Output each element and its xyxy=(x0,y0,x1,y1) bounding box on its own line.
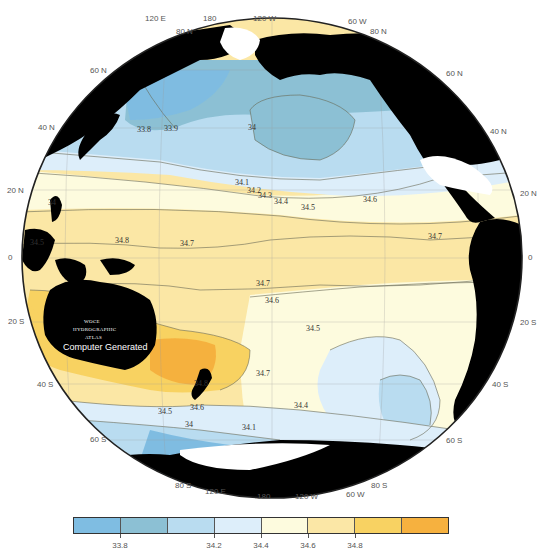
contour-label: 33.9 xyxy=(164,124,178,133)
contour-label: 34 xyxy=(248,123,256,132)
contour-label: 34.6 xyxy=(265,296,279,305)
lon-label-bottom-60w: 60 W xyxy=(346,490,365,499)
colorbar-tick xyxy=(214,534,215,538)
lon-label-bottom-180: 180 xyxy=(257,492,270,501)
atlas-mark-line2: HYDROGRAPHIC xyxy=(73,327,116,332)
colorbar-tick-label: 33.8 xyxy=(112,541,128,550)
lat-label-left-80s: 80 S xyxy=(175,481,191,490)
colorbar-tick-label: 34.6 xyxy=(300,541,316,550)
lat-label-right-0: 0 xyxy=(528,253,532,262)
lat-label-right-60n: 60 N xyxy=(446,69,463,78)
lat-label-right-40s: 40 S xyxy=(492,380,508,389)
lat-label-right-20n: 20 N xyxy=(520,189,537,198)
colorbar-segment xyxy=(121,518,168,533)
atlas-mark-line1: WOCE xyxy=(84,319,100,324)
contour-label: 34.4 xyxy=(294,401,308,410)
contour-label: 34.5 xyxy=(158,407,172,416)
colorbar-tick xyxy=(261,534,262,538)
lon-label-top-120e: 120 E xyxy=(145,14,166,23)
lat-label-right-80n: 80 N xyxy=(370,27,387,36)
lat-label-left-0: 0 xyxy=(8,253,12,262)
contour-label: 34 xyxy=(185,420,193,429)
contour-label: 34.8 xyxy=(194,379,208,388)
lat-label-right-80s: 80 S xyxy=(371,481,387,490)
contour-label: 34 xyxy=(48,198,56,207)
lat-label-left-60s: 60 S xyxy=(90,435,106,444)
contour-label: 34.7 xyxy=(428,232,442,241)
contour-label: 34.1 xyxy=(242,423,256,432)
lat-label-left-60n: 60 N xyxy=(90,66,107,75)
colorbar-tick xyxy=(308,534,309,538)
lat-label-left-20n: 20 N xyxy=(7,186,24,195)
contour-label: 34.7 xyxy=(256,279,270,288)
lat-label-left-20s: 20 S xyxy=(8,317,24,326)
colorbar-segment xyxy=(215,518,262,533)
contour-label: 34.8 xyxy=(115,236,129,245)
contour-label: 34.7 xyxy=(180,239,194,248)
atlas-mark-computer-generated: Computer Generated xyxy=(63,342,148,352)
lon-label-top-180: 180 xyxy=(203,14,216,23)
contour-label: 34.4 xyxy=(274,197,288,206)
contour-label: 34.5 xyxy=(306,324,320,333)
colorbar-segment xyxy=(168,518,215,533)
salinity-colorbar xyxy=(73,517,449,534)
globe-map: 33.833.93434.134.234.334.434.534.634.734… xyxy=(0,0,546,557)
colorbar-tick xyxy=(355,534,356,538)
colorbar-tick-label: 34.4 xyxy=(253,541,269,550)
colorbar-segment xyxy=(74,518,121,533)
contour-label: 33.8 xyxy=(137,125,151,134)
lat-label-left-40s: 40 S xyxy=(37,380,53,389)
colorbar-tick-label: 34.2 xyxy=(206,541,222,550)
salinity-map-figure: 33.833.93434.134.234.334.434.534.634.734… xyxy=(0,0,546,557)
colorbar-segment xyxy=(262,518,309,533)
atlas-mark-line3: ATLAS xyxy=(85,335,102,340)
colorbar-segment xyxy=(308,518,355,533)
lat-label-left-40n: 40 N xyxy=(38,123,55,132)
colorbar-tick-label: 34.8 xyxy=(347,541,363,550)
contour-label: 34.6 xyxy=(190,403,204,412)
lon-label-bottom-120e: 120 E xyxy=(205,487,226,496)
lon-label-top-120w: 120 W xyxy=(253,14,276,23)
lat-label-right-40n: 40 N xyxy=(490,127,507,136)
lon-label-bottom-120w: 120 W xyxy=(295,492,318,501)
lat-label-left-80n: 80 N xyxy=(176,27,193,36)
contour-label: 34.7 xyxy=(256,369,270,378)
contour-label: 34.3 xyxy=(258,191,272,200)
contour-label: 34.5 xyxy=(30,238,44,247)
lon-label-top-60w: 60 W xyxy=(348,17,367,26)
contour-label: 34.6 xyxy=(363,195,377,204)
lat-label-right-60s: 60 S xyxy=(446,436,462,445)
contour-label: 34.5 xyxy=(301,203,315,212)
colorbar-segment xyxy=(402,518,448,533)
lat-label-right-20s: 20 S xyxy=(520,318,536,327)
ocean-layer xyxy=(0,0,546,557)
colorbar-segment xyxy=(355,518,402,533)
colorbar-tick xyxy=(120,534,121,538)
